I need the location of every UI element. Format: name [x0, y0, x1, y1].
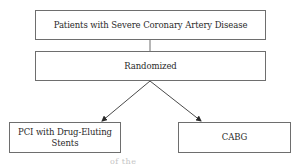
node-cabg: CABG — [178, 122, 291, 153]
caption-fragment: of the — [14, 157, 136, 166]
arrow-to-pci — [102, 81, 150, 121]
caption-text: of the — [110, 157, 136, 166]
node-label: CABG — [222, 132, 247, 143]
arrow-to-cabg — [150, 81, 201, 121]
node-label: Patients with Severe Coronary Artery Dis… — [54, 20, 248, 31]
node-randomized: Randomized — [35, 51, 266, 81]
node-patient-population: Patients with Severe Coronary Artery Dis… — [35, 10, 266, 40]
node-label: Randomized — [124, 61, 176, 72]
node-label: PCI with Drug-Eluting Stents — [18, 127, 112, 149]
node-pci-drug-eluting-stents: PCI with Drug-Eluting Stents — [9, 122, 121, 153]
